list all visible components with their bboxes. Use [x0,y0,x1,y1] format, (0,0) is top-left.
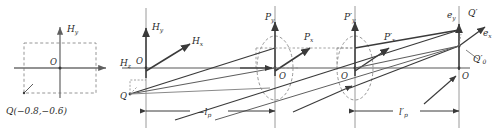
field-point-q-dot [23,92,25,94]
field3d-origin-dot [145,67,148,70]
field-point-q-label: Q(−0.8,−0.6) [6,106,67,116]
diagram-canvas: Hy O Q(−0.8,−0.6) Hy Hx Hz O Q [0,0,504,130]
optics-ray-diagram-figure: Hy O Q(−0.8,−0.6) Hy Hx Hz O Q [0,0,504,130]
image-origin-dot [458,67,461,70]
image-origin-label: O [462,71,469,81]
image-point-q-prime-label: Q′ [468,8,477,18]
field-origin-dot [59,67,62,70]
entrance-pupil-origin-label: O [279,71,286,81]
field-origin-label: O [50,57,57,67]
field3d-origin-label: O [136,56,143,66]
field3d-point-q-label: Q [120,91,127,101]
